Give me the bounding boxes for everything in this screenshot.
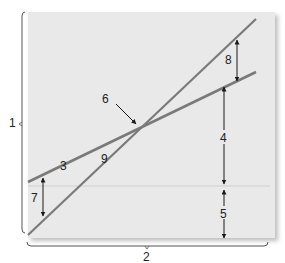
x-axis-label: 2 bbox=[143, 250, 150, 263]
left-gap-label: 7 bbox=[31, 191, 38, 205]
steep-line-label: 9 bbox=[101, 152, 108, 166]
shallow-line-label: 3 bbox=[60, 159, 67, 173]
y-axis-bracket bbox=[22, 12, 25, 233]
chart-panel bbox=[28, 12, 275, 238]
x-axis-bracket bbox=[27, 242, 268, 246]
upper-gap-label: 4 bbox=[220, 131, 227, 145]
intersection-label: 6 bbox=[102, 92, 109, 106]
y-axis-label: 1 bbox=[9, 116, 16, 130]
lower-gap-label: 5 bbox=[220, 207, 227, 221]
diagram-canvas: 1 2 6 3 9 7 8 4 5 bbox=[0, 0, 285, 263]
right-gap-label: 8 bbox=[225, 53, 232, 67]
